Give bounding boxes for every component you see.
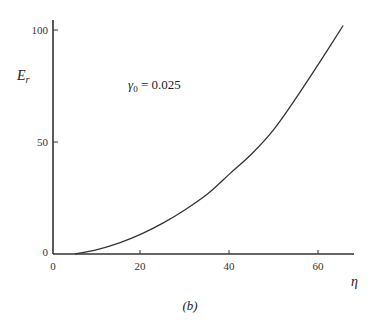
y-tick-label-50: 50 [37, 136, 49, 148]
chart: 100 50 0 0 20 40 60 Er η γ0 = 0.025 (b) [0, 0, 377, 326]
x-tick-label-0: 0 [50, 260, 56, 272]
x-axis-label: η [351, 274, 358, 289]
x-tick-label-60: 60 [313, 260, 325, 272]
y-axis-label: Er [16, 68, 30, 85]
x-tick-label-20: 20 [135, 260, 147, 272]
x-tick-label-40: 40 [224, 260, 236, 272]
figure-caption: (b) [182, 298, 197, 313]
y-tick-label-0: 0 [43, 246, 49, 258]
gamma-annotation: γ0 = 0.025 [128, 77, 181, 94]
data-curve [75, 26, 343, 254]
y-tick-label-100: 100 [32, 24, 49, 36]
